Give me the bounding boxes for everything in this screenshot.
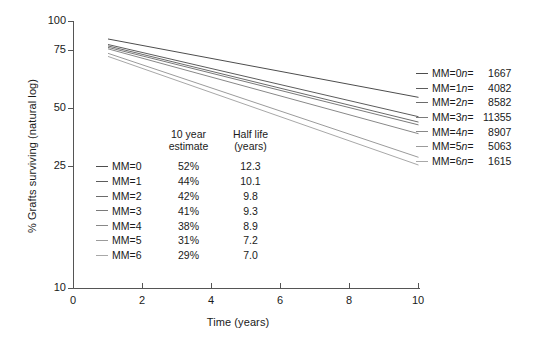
summary-row-swatch <box>96 218 112 233</box>
x-tick-marks <box>74 283 419 289</box>
legend-series-label: MM=5 <box>432 139 461 154</box>
series-line-mm-4 <box>108 49 419 134</box>
legend-series-label: MM=0 <box>432 66 461 81</box>
x-tick-label-8: 8 <box>334 294 364 306</box>
summary-header-halflife-line1: Half life <box>233 128 268 140</box>
summary-row-swatch <box>96 174 112 189</box>
series-legend: MM=0n=1667MM=1n=4082MM=2n=8582MM=3n=1135… <box>416 66 511 168</box>
legend-n-prefix: n= <box>461 154 473 169</box>
summary-row-half-life: 12.3 <box>219 159 281 174</box>
legend-item: MM=6n=1615 <box>416 154 511 169</box>
line-swatch-icon <box>96 166 108 167</box>
line-swatch-icon <box>96 240 108 241</box>
legend-n-prefix: n= <box>461 66 473 81</box>
summary-row-series-label: MM=2 <box>112 189 157 204</box>
summary-table-row: MM=531%7.2 <box>96 233 281 248</box>
summary-header-estimate-line2: estimate <box>169 140 209 152</box>
legend-item: MM=0n=1667 <box>416 66 511 81</box>
line-swatch-icon <box>96 225 108 226</box>
legend-series-label: MM=1 <box>432 81 461 96</box>
summary-row-series-label: MM=5 <box>112 233 157 248</box>
summary-header-estimate: 10 year estimate <box>157 128 219 159</box>
legend-n-prefix: n= <box>461 124 473 139</box>
legend-swatch <box>416 81 432 96</box>
summary-table-header-row: 10 year estimate Half life (years) <box>96 128 281 159</box>
y-tick-label-10: 10 <box>22 282 66 293</box>
series-line-mm-3 <box>108 47 419 125</box>
y-axis-title: % Grafts surviving (natural log) <box>26 36 38 276</box>
legend-n-prefix: n= <box>461 81 473 96</box>
y-tick-label-100: 100 <box>22 15 66 26</box>
summary-row-swatch <box>96 203 112 218</box>
summary-header-swatch <box>96 128 112 159</box>
legend-swatch <box>416 66 432 81</box>
summary-row-ten-year-estimate: 29% <box>157 248 219 263</box>
summary-header-halflife-line2: (years) <box>234 140 267 152</box>
legend-n-value: 5063 <box>473 139 511 154</box>
summary-row-ten-year-estimate: 42% <box>157 189 219 204</box>
summary-header-series <box>112 128 157 159</box>
chart-figure: 100 75 50 25 10 0 2 4 6 8 10 % Grafts su… <box>0 0 535 341</box>
summary-row-half-life: 9.8 <box>219 189 281 204</box>
x-tick-label-2: 2 <box>127 294 157 306</box>
summary-header-estimate-line1: 10 year <box>171 128 206 140</box>
x-tick-label-6: 6 <box>265 294 295 306</box>
line-swatch-icon <box>416 161 428 162</box>
legend-series-label: MM=3 <box>432 110 461 125</box>
summary-table-row: MM=438%8.9 <box>96 218 281 233</box>
legend-item: MM=5n=5063 <box>416 139 511 154</box>
legend-swatch <box>416 95 432 110</box>
summary-row-half-life: 9.3 <box>219 203 281 218</box>
legend-n-value: 8907 <box>473 124 511 139</box>
legend-series-label: MM=6 <box>432 154 461 169</box>
line-swatch-icon <box>416 131 428 132</box>
summary-row-half-life: 10.1 <box>219 174 281 189</box>
summary-row-ten-year-estimate: 41% <box>157 203 219 218</box>
x-tick-label-0: 0 <box>58 294 88 306</box>
summary-row-swatch <box>96 189 112 204</box>
line-swatch-icon <box>416 117 428 118</box>
summary-row-swatch <box>96 233 112 248</box>
summary-row-series-label: MM=0 <box>112 159 157 174</box>
summary-row-swatch <box>96 159 112 174</box>
y-tick-marks <box>68 22 74 289</box>
legend-series-label: MM=2 <box>432 95 461 110</box>
summary-row-series-label: MM=6 <box>112 248 157 263</box>
summary-row-half-life: 7.0 <box>219 248 281 263</box>
legend-n-value: 1667 <box>473 66 511 81</box>
summary-header-halflife: Half life (years) <box>219 128 281 159</box>
summary-table: 10 year estimate Half life (years) MM=05… <box>96 128 281 262</box>
summary-table-row: MM=052%12.3 <box>96 159 281 174</box>
legend-swatch <box>416 139 432 154</box>
summary-row-series-label: MM=3 <box>112 203 157 218</box>
legend-n-prefix: n= <box>461 95 473 110</box>
legend-item: MM=3n=11355 <box>416 110 511 125</box>
series-line-mm-0 <box>108 39 419 97</box>
summary-row-series-label: MM=1 <box>112 174 157 189</box>
x-axis-title: Time (years) <box>73 316 403 328</box>
legend-n-prefix: n= <box>461 110 473 125</box>
legend-series-label: MM=4 <box>432 124 461 139</box>
line-swatch-icon <box>416 73 428 74</box>
summary-row-series-label: MM=4 <box>112 218 157 233</box>
legend-item: MM=2n=8582 <box>416 95 511 110</box>
summary-table-row: MM=629%7.0 <box>96 248 281 263</box>
summary-row-half-life: 7.2 <box>219 233 281 248</box>
summary-row-ten-year-estimate: 31% <box>157 233 219 248</box>
summary-row-ten-year-estimate: 52% <box>157 159 219 174</box>
summary-row-half-life: 8.9 <box>219 218 281 233</box>
line-swatch-icon <box>96 255 108 256</box>
summary-table-row: MM=242%9.8 <box>96 189 281 204</box>
line-swatch-icon <box>96 181 108 182</box>
summary-table-row: MM=341%9.3 <box>96 203 281 218</box>
line-swatch-icon <box>96 196 108 197</box>
legend-n-value: 1615 <box>473 154 511 169</box>
legend-swatch <box>416 154 432 169</box>
line-swatch-icon <box>96 210 108 211</box>
legend-n-value: 8582 <box>473 95 511 110</box>
series-line-mm-1 <box>108 45 419 117</box>
legend-n-value: 11355 <box>473 110 511 125</box>
x-tick-label-4: 4 <box>196 294 226 306</box>
legend-item: MM=1n=4082 <box>416 81 511 96</box>
legend-n-prefix: n= <box>461 139 473 154</box>
